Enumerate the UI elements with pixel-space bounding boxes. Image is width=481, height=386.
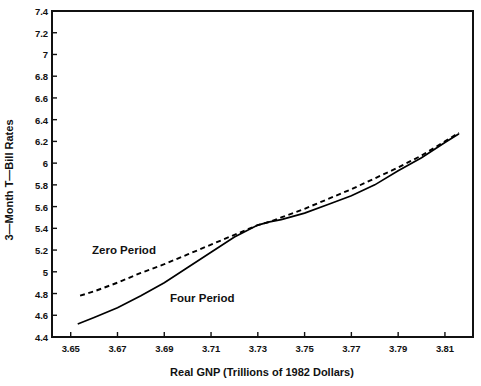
x-axis-title: Real GNP (Trillions of 1982 Dollars): [170, 366, 354, 378]
y-tick-label: 5.2: [22, 245, 48, 256]
x-tick-label: 3.75: [296, 343, 314, 354]
y-tick-label: 6.4: [22, 114, 48, 125]
y-tick-label: 5.8: [22, 179, 48, 190]
x-tick-label: 3.67: [108, 343, 126, 354]
series-line-four-period: [78, 134, 459, 324]
x-tick-label: 3.79: [389, 343, 407, 354]
y-tick-label: 6.2: [22, 136, 48, 147]
y-tick-label: 7.4: [22, 6, 48, 17]
x-tick-label: 3.77: [342, 343, 360, 354]
y-tick-label: 6: [22, 158, 48, 169]
y-tick-label: 6.6: [22, 92, 48, 103]
y-tick-label: 5.6: [22, 201, 48, 212]
x-tick-label: 3.69: [155, 343, 173, 354]
y-tick-label: 5: [22, 266, 48, 277]
x-tick-label: 3.73: [249, 343, 267, 354]
y-tick-label: 7: [22, 49, 48, 60]
chart-figure: 7.47.276.86.66.46.265.85.65.45.254.84.64…: [0, 0, 481, 386]
y-tick-label: 5.4: [22, 223, 48, 234]
y-tick-label: 4.8: [22, 288, 48, 299]
y-tick-label: 4.4: [22, 332, 48, 343]
series-annotation-four-period: Four Period: [170, 292, 235, 304]
series-annotation-zero-period: Zero Period: [92, 244, 156, 256]
y-tick-label: 4.6: [22, 310, 48, 321]
x-tick-label: 3.81: [436, 343, 454, 354]
plot-canvas: [0, 0, 481, 386]
plot-frame: [52, 11, 473, 337]
x-tick-label: 3.71: [202, 343, 220, 354]
series-line-zero-period: [80, 133, 459, 296]
y-tick-label: 7.2: [22, 27, 48, 38]
y-axis-title: 3—Month T—Bill Rates: [3, 119, 15, 240]
y-tick-label: 6.8: [22, 71, 48, 82]
x-tick-label: 3.65: [62, 343, 80, 354]
